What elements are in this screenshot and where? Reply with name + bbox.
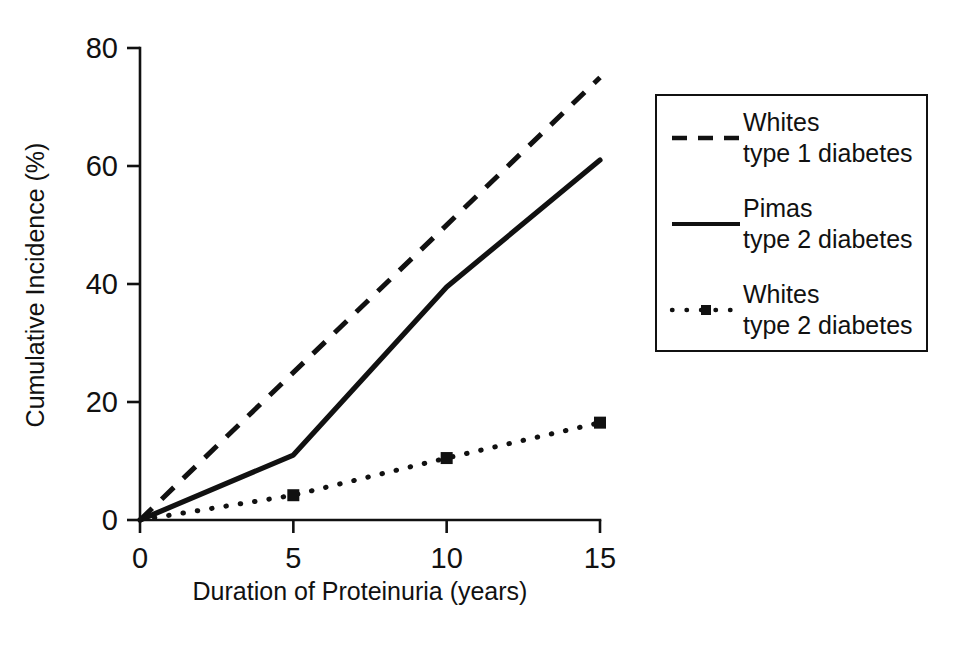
legend-label-line1: Whites: [743, 107, 913, 138]
legend-label-line2: type 1 diabetes: [743, 138, 913, 169]
legend: Whites type 1 diabetes Pimas type 2 diab…: [655, 94, 928, 352]
series-line-0: [140, 78, 600, 521]
legend-label-whites-type1: Whites type 1 diabetes: [743, 107, 913, 169]
x-tick-label: 0: [132, 542, 148, 574]
axes: [127, 48, 600, 533]
y-tick-label: 80: [86, 32, 118, 64]
legend-sample-solid: [669, 209, 743, 239]
legend-label-whites-type2: Whites type 2 diabetes: [743, 279, 913, 341]
x-tick-label: 5: [285, 542, 301, 574]
series-line-2: [140, 423, 600, 520]
data-series: [140, 78, 606, 521]
chart-canvas: 020406080051015 Duration of Proteinuria …: [0, 0, 640, 653]
y-tick-label: 40: [86, 268, 118, 300]
legend-entry-whites-type2: Whites type 2 diabetes: [657, 272, 926, 348]
legend-label-pimas-type2: Pimas type 2 diabetes: [743, 193, 913, 255]
data-point-marker: [287, 489, 299, 501]
legend-sample-dashed: [669, 123, 743, 153]
x-axis-title: Duration of Proteinuria (years): [193, 577, 528, 605]
y-axis-title: Cumulative Incidence (%): [21, 143, 49, 428]
y-tick-label: 60: [86, 150, 118, 182]
legend-sample-dotted: [669, 295, 743, 325]
legend-label-line2: type 2 diabetes: [743, 224, 913, 255]
data-point-marker: [594, 417, 606, 429]
plot-area: 020406080051015 Duration of Proteinuria …: [0, 0, 640, 653]
legend-label-line2: type 2 diabetes: [743, 310, 913, 341]
legend-label-line1: Whites: [743, 279, 913, 310]
legend-entry-whites-type1: Whites type 1 diabetes: [657, 100, 926, 176]
legend-entry-pimas-type2: Pimas type 2 diabetes: [657, 186, 926, 262]
y-tick-label: 0: [102, 504, 118, 536]
series-line-1: [140, 160, 600, 520]
x-tick-label: 15: [584, 542, 616, 574]
x-tick-label: 10: [431, 542, 463, 574]
chart-figure: 020406080051015 Duration of Proteinuria …: [0, 0, 958, 653]
legend-marker-square: [701, 305, 711, 315]
legend-label-line1: Pimas: [743, 193, 913, 224]
y-tick-label: 20: [86, 386, 118, 418]
data-point-marker: [441, 452, 453, 464]
